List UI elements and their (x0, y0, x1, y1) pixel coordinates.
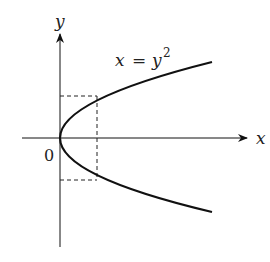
origin-label: 0 (44, 146, 54, 165)
svg-text:=: = (132, 50, 146, 70)
equation-label: x = y 2 (115, 46, 171, 70)
y-axis-label: y (54, 11, 65, 31)
svg-text:2: 2 (163, 46, 171, 60)
svg-text:y: y (151, 50, 162, 70)
svg-text:x: x (115, 50, 125, 70)
parabola-curve (60, 62, 212, 212)
parabola-diagram: y x 0 x = y 2 (0, 0, 270, 262)
x-axis-label: x (256, 128, 266, 148)
diagram-svg: y x 0 x = y 2 (0, 0, 270, 262)
